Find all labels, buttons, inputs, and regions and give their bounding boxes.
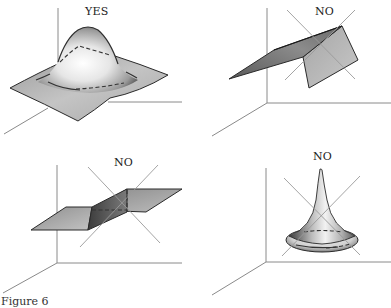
panel-label-no-top-right: NO (315, 5, 334, 18)
panel-bottom-right (212, 168, 391, 295)
folded-plane-surface (229, 26, 358, 88)
spike-horn-surface (286, 169, 358, 252)
gaussian-bump-surface (10, 27, 168, 121)
panel-label-yes: YES (85, 5, 108, 18)
panel-label-no-bottom-right: NO (313, 150, 332, 163)
panel-bottom-left (3, 165, 182, 293)
panel-label-no-bottom-left: NO (114, 156, 133, 169)
panel-top-right (212, 8, 391, 136)
figure-caption: Figure 6 (1, 295, 49, 308)
axes-bottom-left (3, 165, 182, 293)
panel-top-left (4, 8, 182, 134)
step-surface (31, 189, 182, 230)
axes-top-right (212, 8, 391, 136)
